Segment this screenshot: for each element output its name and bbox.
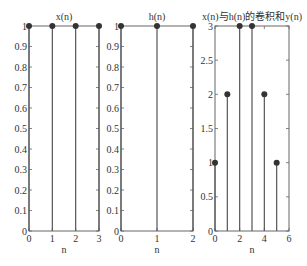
stem-marker [118,23,124,29]
y-tick-label: 0.3 [107,164,120,175]
y-tick-label: 0.5 [107,123,120,134]
plot-title: x(n)与h(n)的卷积和y(n) [202,10,302,23]
x-axis-label: n [62,244,67,255]
stem-plot-1: 00.10.20.30.40.50.60.70.80.910123x(n)n [15,11,103,255]
stem-marker [274,160,280,166]
plot-title: h(n) [149,11,166,23]
y-tick-label: 0.2 [107,185,120,196]
stem-marker [224,91,230,97]
y-tick-label: 0.1 [15,205,28,216]
y-tick-label: 0.9 [15,41,28,52]
x-tick-label: 3 [97,233,102,244]
y-tick-label: 3 [208,21,213,32]
figure: 00.10.20.30.40.50.60.70.80.910123x(n)n00… [0,0,307,266]
x-tick-label: 0 [213,233,218,244]
x-tick-label: 6 [287,233,292,244]
stem-marker [249,23,255,29]
x-axis-label: n [250,244,255,255]
y-tick-label: 0.9 [107,41,120,52]
y-tick-label: 0.6 [107,103,120,114]
y-tick-label: 0.7 [107,82,120,93]
y-tick-label: 0.3 [15,164,28,175]
stem-marker [73,23,79,29]
stem-marker [96,23,102,29]
y-tick-label: 0.4 [15,144,28,155]
x-tick-label: 4 [262,233,267,244]
x-tick-label: 0 [119,233,124,244]
x-tick-label: 1 [50,233,55,244]
y-tick-label: 0.5 [201,191,214,202]
y-tick-label: 1.5 [201,123,214,134]
x-tick-label: 2 [73,233,78,244]
y-tick-label: 2.5 [201,55,214,66]
y-tick-label: 0.5 [15,123,28,134]
y-tick-label: 0.7 [15,82,28,93]
y-tick-label: 0.8 [107,62,120,73]
y-tick-label: 0.8 [15,62,28,73]
stem-marker [154,23,160,29]
y-tick-label: 2 [208,89,213,100]
stem-marker [26,23,32,29]
x-tick-label: 2 [191,233,196,244]
axes-box [29,26,99,231]
stem-plot-3: 00.511.522.530246x(n)与h(n)的卷积和y(n)n [201,10,302,255]
x-tick-label: 2 [237,233,242,244]
stem-plot-2: 00.10.20.30.40.50.60.70.80.91012h(n)n [107,11,197,255]
y-tick-label: 0.6 [15,103,28,114]
x-axis-label: n [155,244,160,255]
stem-marker [261,91,267,97]
stem-marker [49,23,55,29]
plot-title: x(n) [56,11,73,23]
y-tick-label: 0.1 [107,205,120,216]
x-tick-label: 1 [155,233,160,244]
stem-marker [190,23,196,29]
y-tick-label: 0.2 [15,185,28,196]
stem-marker [237,23,243,29]
x-tick-label: 0 [27,233,32,244]
y-tick-label: 0.4 [107,144,120,155]
stem-marker [212,160,218,166]
